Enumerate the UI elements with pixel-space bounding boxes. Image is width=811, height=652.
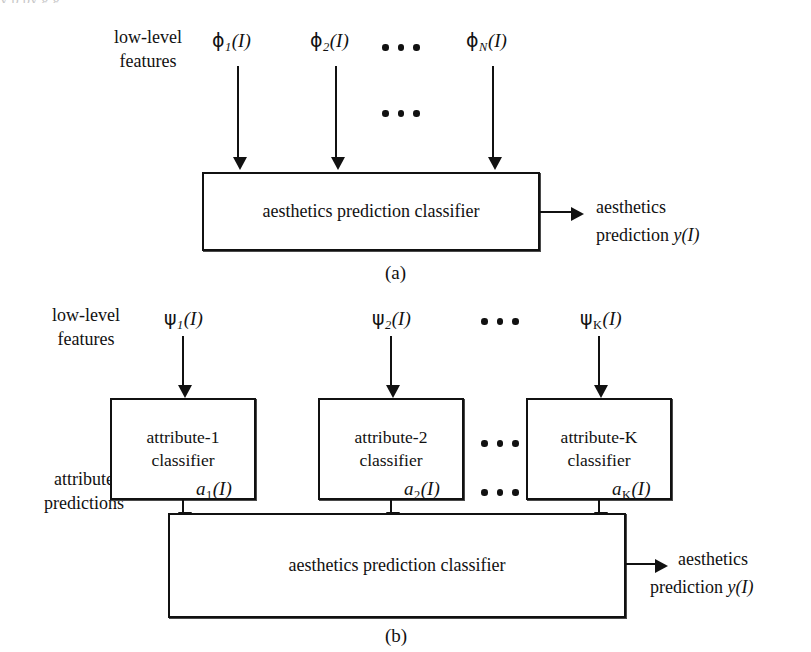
phi-subscript-1: 1 — [225, 40, 232, 54]
panel-b-features-label-line2: features — [26, 328, 146, 352]
panel-a-output-line2: prediction y(I) — [596, 224, 699, 248]
panel-b-attribute-box-1: attribute-1 classifier — [110, 398, 256, 500]
panel-a-input-arrow-n — [492, 66, 494, 158]
phi-subscript-2: 2 — [323, 40, 330, 54]
panel-b-ellipsis-inputs-icon — [481, 318, 519, 325]
panel-b-features-label: low-level features — [26, 304, 146, 352]
panel-b-attribute-output-arrow-k — [598, 500, 600, 513]
a-glyph-1: a — [196, 478, 206, 499]
panel-b-feature-symbol-k: ψK(I) — [580, 306, 622, 333]
panel-b-attribute-box-2-line1: attribute-2 — [355, 427, 428, 447]
panel-a-feature-symbol-2: ϕ2(I) — [310, 28, 349, 55]
panel-b-output-line2: prediction y(I) — [650, 576, 753, 600]
panel-a-features-label-line2: features — [88, 50, 208, 74]
panel-b-attribute-box-1-line2: classifier — [151, 450, 214, 470]
panel-b-output-label: aesthetics prediction y(I) — [678, 548, 753, 600]
psi-glyph-k: ψ — [580, 307, 593, 329]
phi-arg-n: (I) — [488, 30, 507, 51]
panel-b-attribute-box-k-line1: attribute-K — [561, 427, 638, 447]
panel-a-aesthetics-classifier-box: aesthetics prediction classifier — [202, 172, 540, 251]
panel-b-aesthetics-classifier-label: aesthetics prediction classifier — [289, 553, 506, 577]
panel-a-output-arrow — [540, 211, 572, 213]
psi-subscript-k: K — [593, 318, 603, 332]
panel-b-attribute-output-label-2: a2(I) — [404, 476, 440, 503]
panel-b-attribute-box-1-label: attribute-1 classifier — [147, 426, 220, 473]
psi-arg-2: (I) — [392, 308, 411, 329]
panel-a-aesthetics-classifier-label: aesthetics prediction classifier — [263, 199, 480, 223]
panel-b-output-prefix: prediction — [650, 577, 727, 597]
panel-a-output-prefix: prediction — [596, 225, 673, 245]
a-glyph-2: a — [404, 478, 414, 499]
panel-b-aesthetics-classifier-box: aesthetics prediction classifier — [168, 513, 626, 618]
panel-b-input-arrow-2 — [390, 336, 392, 386]
psi-arg-k: (I) — [603, 308, 622, 329]
panel-a-output-symbol: y(I) — [673, 225, 699, 245]
phi-subscript-n: N — [479, 40, 488, 54]
a-arg-k: (I) — [632, 478, 651, 499]
panel-a-caption: (a) — [385, 262, 406, 284]
panel-b-input-arrow-k — [598, 336, 600, 386]
panel-b-caption: (b) — [385, 625, 407, 647]
psi-subscript-1: 1 — [177, 318, 184, 332]
panel-b-ellipsis-outputs-icon — [481, 489, 519, 496]
phi-glyph-1: ϕ — [212, 29, 225, 51]
panel-b-output-line1: aesthetics — [678, 548, 753, 572]
panel-b-attribute-box-1-line1: attribute-1 — [147, 427, 220, 447]
panel-a-feature-symbol-1: ϕ1(I) — [212, 28, 251, 55]
panel-b-attribute-output-label-k: aK(I) — [612, 476, 651, 503]
panel-a-input-arrow-2 — [335, 66, 337, 158]
panel-a-features-label-line1: low-level — [88, 26, 208, 50]
panel-b-attribute-output-label-1: a1(I) — [196, 476, 232, 503]
panel-b-attribute-box-2-line2: classifier — [359, 450, 422, 470]
panel-b-output-symbol: y(I) — [727, 577, 753, 597]
a-arg-1: (I) — [213, 478, 232, 499]
panel-b-features-label-line1: low-level — [26, 304, 146, 328]
panel-b-attribute-box-2: attribute-2 classifier — [318, 398, 464, 500]
a-subscript-2: 2 — [414, 488, 421, 502]
panel-b-attribute-box-k-label: attribute-K classifier — [561, 426, 638, 473]
panel-b-attribute-output-arrow-1 — [182, 500, 184, 513]
panel-a-output-line1: aesthetics — [596, 196, 699, 220]
phi-arg-1: (I) — [232, 30, 251, 51]
panel-b-input-arrow-1 — [182, 336, 184, 386]
panel-a-output-label: aesthetics prediction y(I) — [596, 196, 699, 248]
figure-root: y p py g g low-level features ϕ1(I) ϕ2(I… — [0, 0, 811, 652]
phi-glyph-2: ϕ — [310, 29, 323, 51]
psi-glyph-1: ψ — [164, 307, 177, 329]
a-arg-2: (I) — [421, 478, 440, 499]
a-subscript-k: K — [622, 488, 632, 502]
panel-a-ellipsis-mid-icon — [382, 110, 420, 117]
panel-a-feature-symbol-n: ϕN(I) — [466, 28, 507, 55]
panel-b-attribute-box-2-label: attribute-2 classifier — [355, 426, 428, 473]
panel-b-attribute-box-k-line2: classifier — [567, 450, 630, 470]
panel-b-attribute-output-arrow-2 — [390, 500, 392, 513]
psi-arg-1: (I) — [184, 308, 203, 329]
panel-b-ellipsis-boxes-icon — [481, 440, 519, 447]
panel-a-features-label: low-level features — [88, 26, 208, 74]
panel-b-feature-symbol-2: ψ2(I) — [372, 306, 411, 333]
panel-b-feature-symbol-1: ψ1(I) — [164, 306, 203, 333]
panel-a-ellipsis-top-icon — [382, 44, 420, 51]
psi-glyph-2: ψ — [372, 307, 385, 329]
panel-b-output-arrow — [626, 563, 656, 565]
phi-glyph-n: ϕ — [466, 29, 479, 51]
panel-a-input-arrow-1 — [237, 66, 239, 158]
a-subscript-1: 1 — [206, 488, 213, 502]
psi-subscript-2: 2 — [385, 318, 392, 332]
phi-arg-2: (I) — [330, 30, 349, 51]
scan-remnant-text: y p py g g — [0, 0, 811, 3]
a-glyph-k: a — [612, 478, 622, 499]
